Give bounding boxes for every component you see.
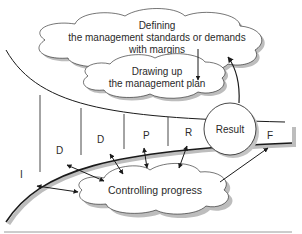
result-label: Result (216, 124, 245, 135)
phase-label-d2: D (97, 134, 104, 145)
phase-label-p: P (143, 130, 150, 141)
phase-label-d1: D (56, 145, 63, 156)
defining-line-2: the management standards or demands (68, 32, 245, 43)
drawing-line-2: the management plan (109, 78, 206, 89)
band-end-shadow (292, 127, 296, 147)
phase-label-r: R (185, 127, 192, 138)
phase-label-f: F (267, 130, 273, 141)
management-diagram: I D D P R F Result Defining the manageme… (0, 0, 302, 234)
controlling-label: Controlling progress (108, 184, 202, 196)
phase-label-i: I (20, 169, 23, 180)
controlling-cloud: Controlling progress (79, 163, 233, 218)
drawing-line-1: Drawing up (132, 66, 183, 77)
defining-line-1: Defining (139, 20, 176, 31)
